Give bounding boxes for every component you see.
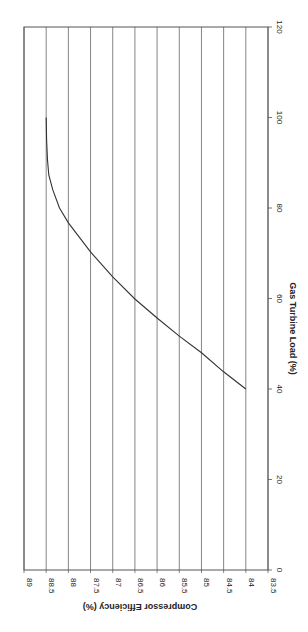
plot-area xyxy=(24,27,268,570)
x-tick-label: 100 xyxy=(275,111,284,125)
x-tick-label: 20 xyxy=(275,475,284,484)
chart: 83.58484.58585.58686.58787.58888.5890204… xyxy=(0,0,308,632)
y-tick-label: 84.5 xyxy=(225,578,234,594)
axis-ticks: 83.58484.58585.58686.58787.58888.5890204… xyxy=(25,20,284,594)
gridlines xyxy=(24,27,268,573)
y-tick-label: 87 xyxy=(114,578,123,587)
line-chart: 83.58484.58585.58686.58787.58888.5890204… xyxy=(0,0,308,632)
y-axis-label: Compressor Efficiency (%) xyxy=(83,602,198,612)
x-axis-label: Gas Turbine Load (%) xyxy=(288,282,298,374)
x-tick-label: 40 xyxy=(275,385,284,394)
y-tick-label: 88 xyxy=(69,578,78,587)
x-tick-label: 60 xyxy=(275,294,284,303)
y-tick-label: 85.5 xyxy=(180,578,189,594)
y-tick-label: 89 xyxy=(25,578,34,587)
y-tick-label: 87.5 xyxy=(92,578,101,594)
y-tick-label: 85 xyxy=(202,578,211,587)
y-tick-label: 83.5 xyxy=(269,578,278,594)
y-tick-label: 86.5 xyxy=(136,578,145,594)
x-tick-label: 80 xyxy=(275,204,284,213)
x-tick-label: 120 xyxy=(275,20,284,34)
y-tick-label: 88.5 xyxy=(47,578,56,594)
efficiency-curve xyxy=(46,118,246,390)
y-tick-label: 84 xyxy=(247,578,256,587)
x-tick-label: 0 xyxy=(275,568,284,573)
y-tick-label: 86 xyxy=(158,578,167,587)
